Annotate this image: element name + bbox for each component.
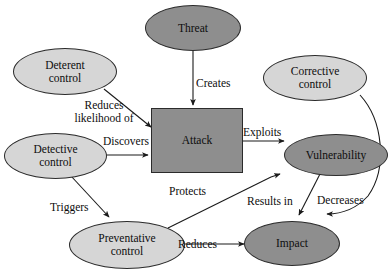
- node-impact[interactable]: Impact: [244, 221, 340, 266]
- node-corrective-control[interactable]: Corrective control: [263, 55, 367, 101]
- edge-label-reduces-likelihood-of-line2: likelihood of: [74, 112, 133, 124]
- node-preventative-control-label: Preventative control: [90, 232, 163, 258]
- threat-model-diagram: Threat Deterent control Corrective contr…: [0, 0, 390, 269]
- node-corrective-control-label: Corrective control: [283, 65, 348, 91]
- node-preventative-control-label-line2: control: [94, 245, 159, 258]
- edge-preventative-attack-head: [271, 174, 280, 177]
- node-attack-label: Attack: [178, 134, 217, 147]
- node-threat[interactable]: Threat: [145, 5, 241, 51]
- node-attack[interactable]: Attack: [151, 108, 243, 173]
- node-preventative-control-label-line1: Preventative: [94, 232, 159, 245]
- node-corrective-control-label-line2: control: [287, 78, 344, 91]
- node-threat-label: Threat: [174, 22, 212, 35]
- edge-label-creates: Creates: [196, 77, 230, 90]
- edge-label-results-in: Results in: [247, 195, 293, 208]
- node-impact-label: Impact: [272, 237, 312, 250]
- edge-label-reduces: Reduces: [178, 238, 217, 251]
- node-deterent-control[interactable]: Deterent control: [13, 48, 117, 95]
- edge-label-triggers: Triggers: [50, 201, 89, 214]
- node-detective-control[interactable]: Detective control: [4, 133, 107, 179]
- edge-label-reduces-likelihood-of-line1: Reduces: [85, 99, 124, 111]
- node-preventative-control[interactable]: Preventative control: [69, 221, 185, 269]
- edge-label-reduces-likelihood-of: Reduces likelihood of: [58, 99, 150, 125]
- node-detective-control-label-line1: Detective: [29, 143, 81, 156]
- node-detective-control-label-line2: control: [29, 156, 81, 169]
- node-detective-control-label: Detective control: [25, 143, 85, 169]
- edge-label-discovers: Discovers: [103, 135, 149, 148]
- edge-label-protects: Protects: [169, 185, 206, 198]
- node-deterent-control-label-line1: Deterent: [41, 59, 89, 72]
- node-deterent-control-label-line2: control: [41, 72, 89, 85]
- node-vulnerability-label: Vulnerability: [302, 149, 371, 162]
- node-vulnerability[interactable]: Vulnerability: [284, 134, 388, 176]
- edge-label-decreases: Decreases: [317, 194, 364, 207]
- node-deterent-control-label: Deterent control: [37, 59, 93, 85]
- edge-label-exploits: Exploits: [243, 126, 281, 139]
- node-corrective-control-label-line1: Corrective: [287, 65, 344, 78]
